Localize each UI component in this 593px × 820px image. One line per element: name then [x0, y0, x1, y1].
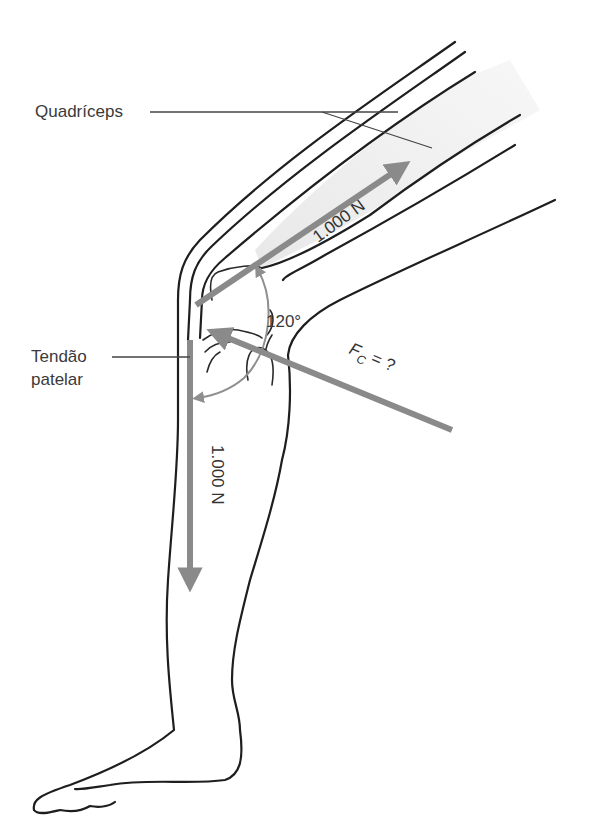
joint-compression-force-arrow	[218, 334, 452, 430]
leg-outline	[34, 42, 555, 813]
quadriceps-label: Quadríceps	[35, 102, 123, 121]
angle-arc	[198, 270, 268, 398]
angle-label: 120°	[266, 312, 301, 331]
patellar-tendon-label-line2: patelar	[31, 370, 83, 389]
quadriceps-force-arrow	[196, 168, 400, 305]
knee-joint-structures	[203, 266, 273, 385]
patellar-tendon-force-label: 1.000 N	[208, 445, 227, 505]
compression-force-label: FC = ?	[345, 339, 398, 379]
patellar-tendon-label-line1: Tendão	[31, 347, 87, 366]
compression-force-value: = ?	[364, 347, 398, 376]
knee-force-diagram: 120° 1.000 N 1.000 N FC = ? Quadríceps T…	[0, 0, 593, 820]
